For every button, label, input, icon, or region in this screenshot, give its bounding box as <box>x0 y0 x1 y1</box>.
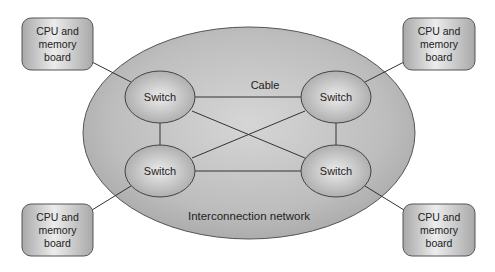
switch-label: Switch <box>320 91 352 103</box>
switch-label: Switch <box>320 165 352 177</box>
board-label-line2: memory <box>420 224 459 236</box>
multicomputer-diagram: Switch Switch Switch Switch Cable Interc… <box>0 0 495 272</box>
switch-tl: Switch <box>125 71 195 123</box>
board-label-line1: CPU and <box>418 25 461 37</box>
board-label-line3: board <box>426 237 453 249</box>
board-label-line1: CPU and <box>418 211 461 223</box>
board-label-line3: board <box>44 51 71 63</box>
board-label-line2: memory <box>39 38 78 50</box>
board-bl: CPU and memory board <box>22 204 93 256</box>
board-label-line3: board <box>426 51 453 63</box>
board-tl: CPU and memory board <box>22 18 93 70</box>
board-label-line1: CPU and <box>36 25 79 37</box>
board-tr: CPU and memory board <box>403 18 475 70</box>
switch-br: Switch <box>301 145 371 197</box>
board-label-line2: memory <box>39 224 78 236</box>
cable-label: Cable <box>251 79 280 91</box>
switch-label: Switch <box>144 165 176 177</box>
board-label-line1: CPU and <box>36 211 79 223</box>
interconnection-network <box>83 27 415 239</box>
switch-label: Switch <box>144 91 176 103</box>
board-label-line3: board <box>44 237 71 249</box>
network-label: Interconnection network <box>188 210 310 222</box>
board-br: CPU and memory board <box>403 204 475 256</box>
board-label-line2: memory <box>420 38 459 50</box>
switch-bl: Switch <box>125 145 195 197</box>
switch-tr: Switch <box>301 71 371 123</box>
